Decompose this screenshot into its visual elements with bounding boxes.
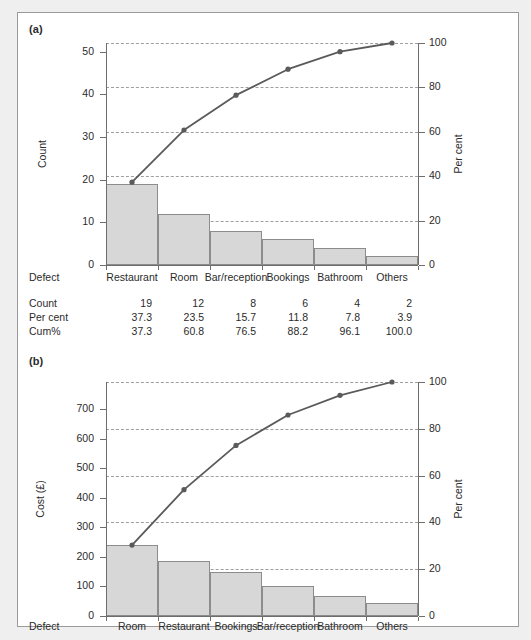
table-cell: 4 (308, 297, 360, 309)
table-cell: 6 (256, 297, 308, 309)
table-cell: 2 (360, 297, 412, 309)
cumulative-point-marker (389, 379, 394, 384)
table-cell: 60.8 (152, 325, 204, 337)
table-cell: 88.2 (256, 325, 308, 337)
table-row-label: Cum% (29, 325, 61, 337)
table-cell: 7.8 (308, 311, 360, 323)
table-cell: 3.9 (360, 311, 412, 323)
figure-page: (a) 01020304050020406080100CountPer cent… (0, 0, 531, 640)
pareto-chart-count: 01020304050020406080100CountPer centRest… (18, 13, 520, 343)
table-cell: 11.8 (256, 311, 308, 323)
cumulative-point-marker (233, 93, 238, 98)
figure-frame: (a) 01020304050020406080100CountPer cent… (17, 12, 519, 627)
table-cell: 8 (204, 297, 256, 309)
table-cell: 23.5 (152, 311, 204, 323)
table-cell: 96.1 (308, 325, 360, 337)
cumulative-point-marker (337, 393, 342, 398)
cumulative-percent-line (132, 382, 392, 545)
cumulative-point-marker (181, 127, 186, 132)
cumulative-point-marker (285, 67, 290, 72)
cumulative-point-marker (285, 412, 290, 417)
table-cell: 100.0 (360, 325, 412, 337)
cumulative-point-marker (337, 49, 342, 54)
table-row-label: Per cent (29, 311, 68, 323)
cumulative-point-marker (233, 443, 238, 448)
table-row-label: Count (29, 297, 57, 309)
table-cell: 37.3 (100, 311, 152, 323)
cumulative-point-marker (129, 180, 134, 185)
cumulative-line-group (18, 348, 520, 640)
cumulative-point-marker (389, 40, 394, 45)
table-cell: 19 (100, 297, 152, 309)
table-cell: 37.3 (100, 325, 152, 337)
table-cell: 12 (152, 297, 204, 309)
pareto-chart-cost: 0100200300400500600700020406080100Cost (… (18, 348, 520, 628)
table-cell: 76.5 (204, 325, 256, 337)
cumulative-point-marker (181, 487, 186, 492)
cumulative-percent-line (132, 43, 392, 182)
cumulative-point-marker (129, 543, 134, 548)
table-cell: 15.7 (204, 311, 256, 323)
